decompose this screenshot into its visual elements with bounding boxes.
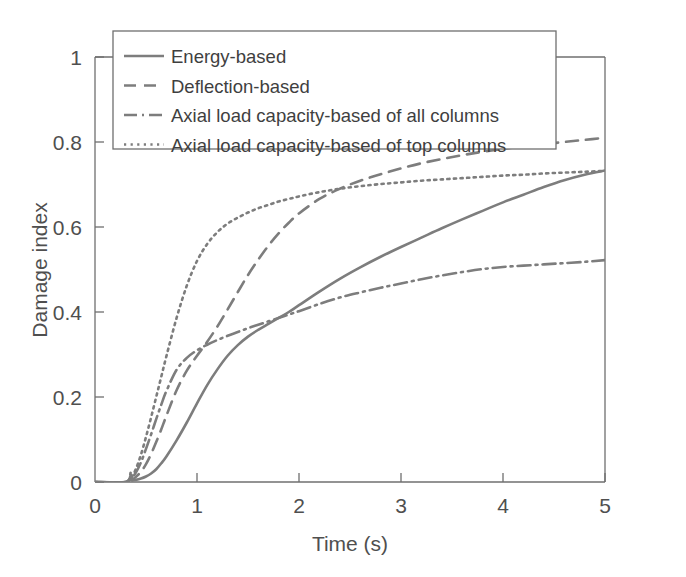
y-tick-label: 0.4 — [53, 301, 83, 324]
x-tick-label: 4 — [497, 494, 509, 517]
y-tick-label: 1 — [70, 46, 82, 69]
legend-label-1: Energy-based — [171, 46, 286, 67]
y-axis-title: Damage index — [28, 202, 51, 338]
y-tick-label: 0.6 — [53, 216, 82, 239]
y-axis-ticks — [95, 57, 104, 482]
y-tick-label: 0.2 — [53, 386, 82, 409]
x-tick-label: 1 — [191, 494, 203, 517]
legend-label-2: Deflection-based — [171, 76, 310, 97]
legend: Energy-basedDeflection-basedAxial load c… — [113, 31, 556, 156]
x-axis-tick-labels: 012345 — [89, 494, 611, 517]
series-line-1 — [95, 170, 605, 482]
damage-index-line-chart: 00.20.40.60.81 012345 Time (s) Damage in… — [0, 0, 686, 577]
x-axis-ticks — [197, 473, 605, 482]
y-tick-label: 0 — [70, 471, 82, 494]
y-tick-label: 0.8 — [53, 131, 82, 154]
x-tick-label: 2 — [293, 494, 305, 517]
x-axis-title: Time (s) — [312, 532, 388, 555]
series-line-4 — [95, 171, 605, 483]
legend-label-3: Axial load capacity-based of all columns — [171, 105, 499, 126]
chart-figure: 00.20.40.60.81 012345 Time (s) Damage in… — [0, 0, 686, 577]
data-curves — [95, 138, 605, 483]
x-tick-label: 5 — [599, 494, 611, 517]
y-axis-tick-labels: 00.20.40.60.81 — [53, 46, 83, 494]
x-tick-label: 3 — [395, 494, 407, 517]
x-tick-label: 0 — [89, 494, 101, 517]
series-line-2 — [95, 138, 605, 483]
legend-label-4: Axial load capacity-based of top columns — [171, 135, 506, 156]
